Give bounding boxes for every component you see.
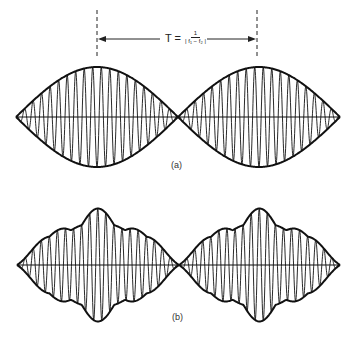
right-arrowhead-icon bbox=[248, 36, 256, 42]
waveform-a bbox=[16, 67, 340, 167]
panel-label-a: (a) bbox=[171, 160, 182, 170]
formula-lhs: T = bbox=[165, 32, 181, 44]
panel-label-b: (b) bbox=[172, 312, 183, 322]
formula-numerator: 1 bbox=[191, 30, 200, 38]
envelope-upper bbox=[17, 209, 340, 265]
envelope-upper bbox=[16, 67, 340, 117]
formula-denominator: | f₁ − f₂ | bbox=[185, 38, 206, 45]
formula-fraction: 1 | f₁ − f₂ | bbox=[185, 30, 206, 45]
left-arrowhead-icon bbox=[98, 36, 106, 42]
waveform-b bbox=[17, 209, 340, 322]
period-formula: T = 1 | f₁ − f₂ | bbox=[165, 30, 206, 45]
